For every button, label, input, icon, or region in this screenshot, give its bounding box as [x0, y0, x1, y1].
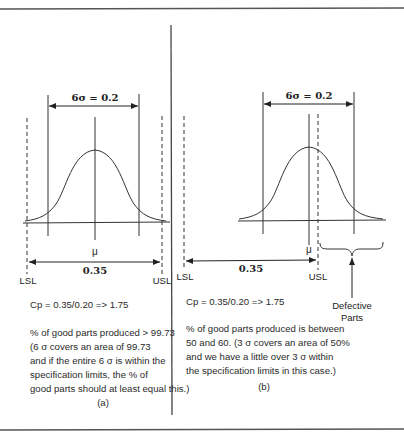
top-rule: [0, 8, 404, 9]
description-line: and if the entire 6 σ is within the: [30, 354, 189, 368]
panel-a: 6σ = 0.2 μ 0.35 LSL USL: [20, 92, 172, 286]
spec-width-label: 0.35: [239, 263, 263, 274]
mean-label: μ: [306, 244, 312, 255]
description-line: % of good parts produced is between: [186, 322, 350, 336]
baseline: [23, 222, 170, 223]
usl-label: USL: [309, 271, 327, 282]
description-line: 50 and 60. (3 σ covers an area of 50%: [186, 336, 350, 350]
description-line: specification limits, the % of: [30, 368, 189, 382]
panel-a-description: % of good parts produced > 99.73 (6 σ co…: [30, 326, 189, 396]
description-line: the specification limits in this case.): [186, 364, 350, 378]
description-line: and we have a little over 3 σ within: [186, 350, 350, 364]
spec-width-label: 0.35: [83, 265, 107, 276]
panel-b-description: % of good parts produced is between 50 a…: [186, 322, 350, 378]
panel-b-cp-formula: Cp = 0.35/0.20 => 1.75: [186, 295, 284, 309]
panel-b: 6σ = 0.2 μ 0.35 LSL USL Defective Parts: [177, 90, 386, 323]
six-sigma-label: 6σ = 0.2: [71, 92, 118, 103]
description-line: (6 σ covers an area of 99.73: [30, 340, 189, 354]
mean-label: μ: [92, 246, 98, 257]
defective-label-line1: Defective: [332, 300, 372, 311]
bottom-rule: [0, 429, 404, 430]
usl-label: USL: [153, 275, 171, 286]
lsl-label: LSL: [177, 271, 194, 282]
baseline: [238, 220, 386, 221]
description-line: % of good parts produced > 99.73: [30, 326, 189, 340]
spec-width-arrow: [186, 260, 316, 261]
description-line: good parts should at least equal this.): [30, 382, 189, 396]
defective-region-brace: [320, 242, 383, 256]
lsl-label: LSL: [20, 275, 37, 286]
panel-a-caption: (a): [93, 396, 113, 410]
panel-b-caption: (b): [254, 380, 274, 394]
normal-curve: [239, 147, 383, 219]
six-sigma-label: 6σ = 0.2: [285, 90, 332, 101]
panel-a-cp-formula: Cp = 0.35/0.20 => 1.75: [30, 298, 128, 312]
